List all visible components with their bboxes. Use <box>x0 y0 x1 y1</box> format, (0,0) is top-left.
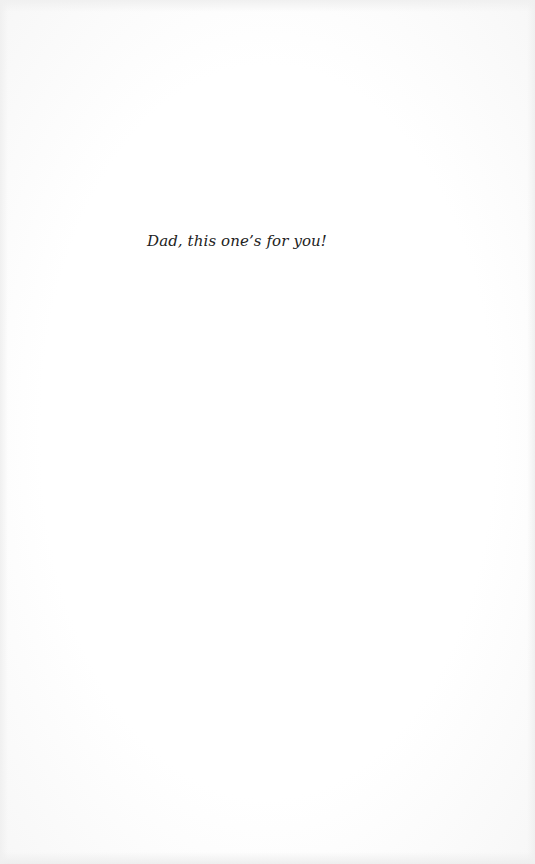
page-edge-top <box>0 0 535 12</box>
page-edge-left <box>0 0 8 864</box>
page-edge-right <box>527 0 535 864</box>
book-page: Dad, this one’s for you! <box>0 0 535 864</box>
page-edge-bottom <box>0 852 535 864</box>
dedication-text: Dad, this one’s for you! <box>147 232 327 250</box>
